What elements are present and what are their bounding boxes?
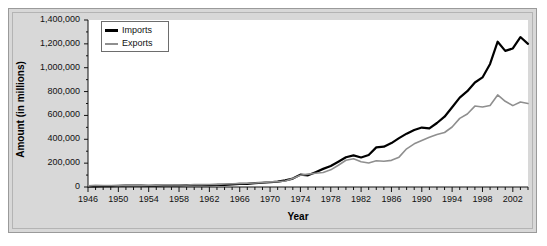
legend-label-exports: Exports [122, 38, 153, 49]
y-tick-label: 200,000 [0, 157, 80, 167]
legend-swatch-exports-icon [105, 43, 118, 45]
chart-legend: Imports Exports [101, 21, 169, 52]
x-axis-ticks [88, 187, 528, 192]
y-tick-label: 800,000 [0, 86, 80, 96]
y-tick-label: 1,200,000 [0, 38, 80, 48]
legend-swatch-imports-icon [105, 29, 118, 32]
legend-item-imports: Imports [105, 24, 168, 37]
legend-label-imports: Imports [122, 25, 152, 36]
y-tick-label: 1,400,000 [0, 14, 80, 24]
y-tick-label: 0 [0, 181, 80, 191]
y-axis-ticks [84, 20, 88, 187]
legend-item-exports: Exports [105, 37, 168, 50]
y-tick-label: 600,000 [0, 109, 80, 119]
y-tick-label: 400,000 [0, 133, 80, 143]
y-tick-label: 1,000,000 [0, 62, 80, 72]
x-axis-title: Year [250, 211, 346, 222]
chart-figure: 0200,000400,000600,000800,0001,000,0001,… [0, 0, 547, 246]
line-chart-plot [0, 0, 547, 246]
y-axis-title: Amount (in millions) [15, 43, 26, 177]
x-tick-label: 2002 [493, 194, 533, 204]
